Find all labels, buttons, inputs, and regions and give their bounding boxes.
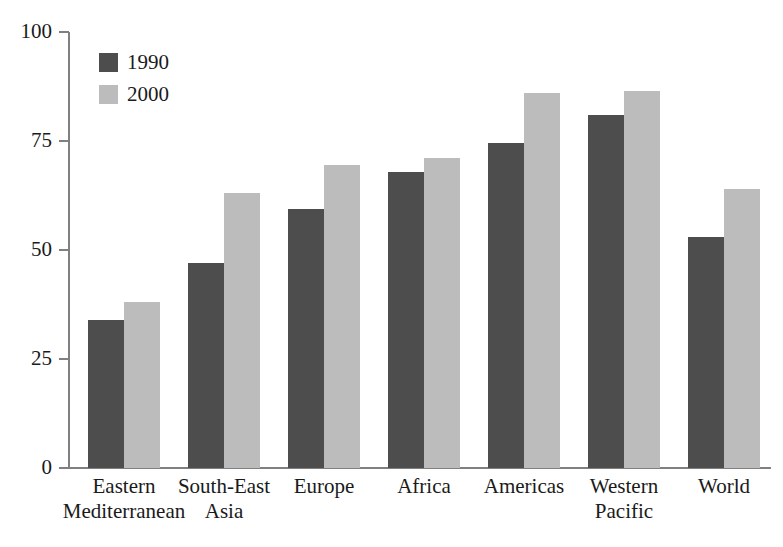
legend-item: 1990 (99, 52, 169, 73)
y-tick-mark (59, 358, 69, 360)
bar-group (488, 32, 560, 468)
bar-1990-western-pacific (588, 115, 624, 468)
bar-2000-world (724, 189, 760, 468)
bar-chart: 0255075100 EasternMediterraneanSouth-Eas… (0, 0, 783, 547)
legend-label: 1990 (127, 52, 169, 73)
chart-legend: 19902000 (99, 52, 169, 116)
y-tick-label: 25 (0, 348, 52, 369)
legend-label: 2000 (127, 84, 169, 105)
y-tick-mark (59, 140, 69, 142)
y-tick-label: 75 (0, 130, 52, 151)
bar-group (388, 32, 460, 468)
bar-2000-americas (524, 93, 560, 468)
bar-2000-south-east-asia (224, 193, 260, 468)
bar-2000-eastern-mediterranean (124, 302, 160, 468)
bar-2000-europe (324, 165, 360, 468)
category-label-line2: Pacific (514, 499, 734, 524)
bar-1990-americas (488, 143, 524, 468)
bar-1990-world (688, 237, 724, 468)
y-tick-label: 100 (0, 21, 52, 42)
plot-area (69, 32, 769, 468)
bar-1990-europe (288, 209, 324, 468)
bar-1990-eastern-mediterranean (88, 320, 124, 468)
y-tick-mark (59, 31, 69, 33)
bar-2000-western-pacific (624, 91, 660, 468)
bar-1990-south-east-asia (188, 263, 224, 468)
category-label-line1: World (698, 474, 750, 498)
bar-group (588, 32, 660, 468)
y-tick-mark (59, 249, 69, 251)
y-tick-mark (59, 467, 69, 469)
category-label-line2: Asia (114, 499, 334, 524)
y-tick-label: 50 (0, 239, 52, 260)
bar-group (688, 32, 760, 468)
legend-swatch-icon (99, 85, 118, 104)
legend-item: 2000 (99, 84, 169, 105)
bar-1990-africa (388, 172, 424, 468)
category-label: World (614, 474, 783, 499)
bar-group (288, 32, 360, 468)
legend-swatch-icon (99, 53, 118, 72)
bar-group (188, 32, 260, 468)
bar-2000-africa (424, 158, 460, 468)
